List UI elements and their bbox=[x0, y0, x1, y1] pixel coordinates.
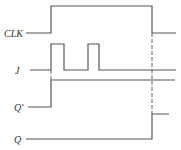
signal-label-j: J bbox=[15, 65, 20, 76]
waveform-q bbox=[26, 114, 169, 139]
signal-q: Q bbox=[14, 114, 169, 145]
signal-label-clk: CLK bbox=[4, 28, 24, 39]
waveform-q-prime bbox=[28, 80, 175, 107]
signal-q-prime: Q' bbox=[14, 80, 175, 113]
signal-label-q: Q bbox=[14, 134, 22, 145]
timing-diagram: CLK J Q' Q bbox=[0, 0, 181, 150]
waveform-clk bbox=[26, 6, 176, 33]
signal-clk: CLK bbox=[4, 6, 176, 39]
signal-label-q-prime: Q' bbox=[14, 102, 24, 113]
waveform-j bbox=[30, 44, 176, 70]
